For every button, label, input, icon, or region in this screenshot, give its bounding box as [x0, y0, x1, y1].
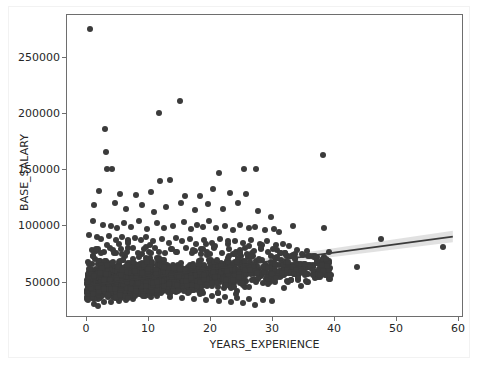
y-tick-label-150000: 150000 [18, 163, 60, 176]
y-tick-label-250000: 250000 [18, 51, 60, 64]
x-tick-label-40: 40 [327, 322, 341, 335]
y-tick-label-100000: 100000 [18, 219, 60, 232]
x-tick-mark-10 [148, 317, 149, 321]
x-tick-mark-50 [396, 317, 397, 321]
x-tick-mark-40 [334, 317, 335, 321]
y-tick-label-200000: 200000 [18, 107, 60, 120]
plot-area [66, 14, 463, 317]
x-tick-label-30: 30 [265, 322, 279, 335]
x-axis-label: YEARS_EXPERIENCE [66, 338, 463, 351]
x-tick-label-0: 0 [83, 322, 90, 335]
scatter-plot-figure: BASE_SALARY 250000 200000 150000 100000 … [0, 0, 479, 366]
x-tick-mark-30 [272, 317, 273, 321]
x-tick-mark-60 [458, 317, 459, 321]
x-tick-label-10: 10 [141, 322, 155, 335]
x-tick-label-60: 60 [451, 322, 465, 335]
x-tick-label-50: 50 [389, 322, 403, 335]
x-tick-mark-0 [86, 317, 87, 321]
regression-line-path [87, 237, 453, 286]
regression-line [67, 15, 462, 316]
x-tick-mark-20 [210, 317, 211, 321]
x-tick-label-20: 20 [203, 322, 217, 335]
y-tick-label-50000: 50000 [25, 276, 60, 289]
